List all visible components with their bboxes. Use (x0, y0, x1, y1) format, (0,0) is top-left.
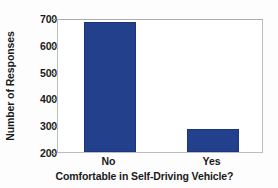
x-axis-tick-label: Yes (182, 155, 242, 167)
y-axis-tick-label: 400 (5, 93, 57, 105)
bar-group (58, 20, 262, 152)
y-axis-tick-label: 600 (5, 40, 57, 52)
y-axis-tick-mark (52, 19, 56, 20)
bar-chart-figure: Number of Responses 200300400500600700 N… (0, 0, 278, 188)
y-axis-tick-label: 700 (5, 13, 57, 25)
bar (84, 22, 136, 152)
bar (187, 129, 239, 152)
plot-area (57, 19, 263, 153)
y-axis-tick-mark (52, 153, 56, 154)
y-axis-tick-group: 200300400500600700 (0, 19, 57, 153)
y-axis-tick-label: 500 (5, 67, 57, 79)
x-axis-tick-label: No (79, 155, 139, 167)
x-axis-tick-group: NoYes (57, 155, 263, 169)
y-axis-tick-mark (52, 73, 56, 74)
x-axis-title: Comfortable in Self-Driving Vehicle? (22, 170, 267, 182)
y-axis-tick-mark (52, 126, 56, 127)
y-axis-tick-label: 300 (5, 120, 57, 132)
y-axis-tick-label: 200 (5, 147, 57, 159)
y-axis-tick-mark (52, 46, 56, 47)
y-axis-tick-mark (52, 99, 56, 100)
